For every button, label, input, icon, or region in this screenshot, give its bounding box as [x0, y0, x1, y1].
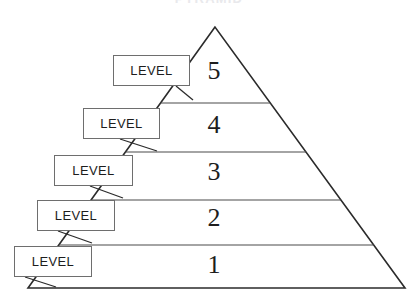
- level-callout-label: LEVEL: [55, 208, 97, 223]
- tier-number-3: 3: [194, 159, 234, 185]
- tier-number-2: 2: [194, 205, 234, 231]
- level-callout-box-1[interactable]: LEVEL: [14, 246, 92, 277]
- tier-number-1: 1: [194, 252, 234, 278]
- level-callout-box-4[interactable]: LEVEL: [83, 108, 160, 139]
- connector-line-tier-3: [90, 186, 123, 198]
- level-callout-label: LEVEL: [72, 163, 114, 178]
- level-callout-box-5[interactable]: LEVEL: [113, 55, 190, 86]
- connector-line-tier-2: [58, 231, 92, 243]
- level-callout-label: LEVEL: [100, 116, 142, 131]
- tier-number-4: 4: [194, 112, 234, 138]
- level-callout-box-2[interactable]: LEVEL: [37, 200, 115, 231]
- level-callout-label: LEVEL: [130, 63, 172, 78]
- level-callout-box-3[interactable]: LEVEL: [54, 155, 133, 186]
- tier-number-5: 5: [194, 58, 234, 84]
- pyramid-diagram: PYRAMID 54321 LEVELLEVELLEVELLEVELLEVEL: [0, 0, 418, 300]
- connector-line-tier-4: [120, 139, 157, 151]
- connector-line-tier-5: [176, 86, 193, 100]
- level-callout-label: LEVEL: [32, 254, 74, 269]
